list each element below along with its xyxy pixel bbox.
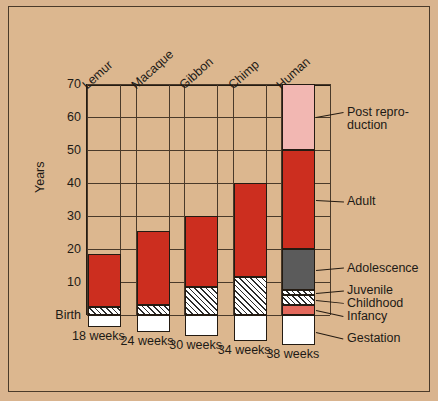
legend-label-infancy: Infancy — [347, 310, 387, 323]
bar-segment-human-gestation — [282, 315, 315, 345]
bar-segment-human-adult — [282, 150, 315, 249]
bar-segment-chimp-gestation — [234, 315, 267, 341]
bar-segment-lemur-adult — [88, 254, 121, 307]
bar-segment-human-juvenile — [282, 290, 315, 295]
bar-segment-human-post — [282, 84, 315, 150]
bar-segment-gibbon-gestation — [185, 315, 218, 336]
bar-segment-macaque-juvenile — [137, 305, 170, 315]
gestation-label-chimp: 34 weeks — [218, 343, 271, 357]
bar-chimp[interactable] — [234, 84, 267, 315]
bar-segment-macaque-gestation — [137, 315, 170, 332]
y-tick-label-70: 70 — [67, 77, 81, 91]
chart-frame: Years 70605040302010Birth Lemur18 weeksM… — [8, 6, 430, 392]
bar-segment-macaque-adult — [137, 231, 170, 305]
y-tick-label-30: 30 — [67, 209, 81, 223]
bar-segment-chimp-adult — [234, 183, 267, 277]
bar-segment-human-childhood — [282, 295, 315, 305]
gestation-label-gibbon: 30 weeks — [169, 338, 222, 352]
bar-segment-human-infancy — [282, 305, 315, 315]
bar-segment-gibbon-adult — [185, 216, 218, 287]
y-tick-label-60: 60 — [67, 110, 81, 124]
y-tick-label-10: 10 — [67, 275, 81, 289]
bar-human[interactable] — [282, 84, 315, 315]
gestation-label-macaque: 24 weeks — [121, 334, 174, 348]
legend-leader-line-gestation — [316, 332, 344, 339]
gestation-label-lemur: 18 weeks — [72, 329, 125, 343]
legend-label-adolescence: Adolescence — [347, 262, 419, 275]
chart-figure: Years 70605040302010Birth Lemur18 weeksM… — [0, 0, 438, 401]
y-axis-title: Years — [33, 161, 47, 193]
y-tick-label-40: 40 — [67, 176, 81, 190]
legend-label-adult: Adult — [347, 195, 376, 208]
bar-gibbon[interactable] — [185, 84, 218, 315]
legend-label-post-reproduction: Post repro- duction — [347, 106, 409, 132]
bar-lemur[interactable] — [88, 84, 121, 315]
bar-segment-lemur-childhood — [88, 307, 121, 315]
bar-segment-lemur-gestation — [88, 315, 121, 327]
y-tick-label-birth: Birth — [55, 308, 81, 322]
bar-segment-human-adolescence — [282, 249, 315, 290]
legend-label-gestation: Gestation — [347, 332, 401, 345]
y-tick-label-50: 50 — [67, 143, 81, 157]
bar-segment-gibbon-juvenile — [185, 287, 218, 315]
gestation-label-human: 38 weeks — [266, 347, 319, 361]
bar-macaque[interactable] — [137, 84, 170, 315]
y-tick-label-20: 20 — [67, 242, 81, 256]
gridline-x-5 — [330, 84, 331, 315]
plot-area: 70605040302010Birth — [87, 84, 330, 315]
bar-segment-chimp-juvenile — [234, 277, 267, 315]
